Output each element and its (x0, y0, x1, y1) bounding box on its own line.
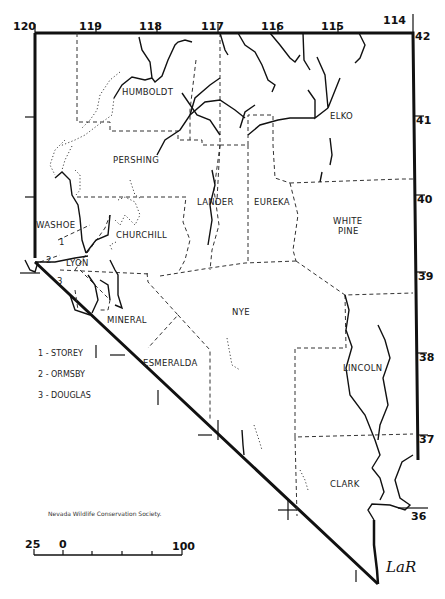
lat-38: 38 (419, 351, 434, 364)
legend-ormsby: 2 - ORMSBY (38, 370, 85, 379)
lon-114: 114 (383, 14, 406, 27)
county-nye: NYE (232, 307, 250, 317)
county-legend: 1 - STOREY 2 - ORMSBY 3 - DOUGLAS (38, 349, 91, 400)
lat-42: 42 (415, 30, 430, 43)
lat-39: 39 (418, 270, 433, 283)
scale-label-25: 25 (25, 538, 40, 551)
county-lyon: LYON (66, 258, 89, 268)
longitude-ticks (20, 14, 413, 582)
state-border (35, 33, 418, 584)
county-clark: CLARK (330, 479, 360, 489)
county-lincoln: LINCOLN (343, 363, 382, 373)
lon-117: 117 (201, 20, 224, 33)
lat-36: 36 (411, 510, 427, 523)
county-eureka: EUREKA (254, 197, 290, 207)
nevada-map: 120 119 118 117 116 115 114 42 41 40 39 … (0, 0, 445, 599)
lon-120: 120 (13, 20, 36, 33)
lon-116: 116 (261, 20, 284, 33)
lon-119: 119 (79, 20, 102, 33)
county-pershing: PERSHING (113, 155, 159, 165)
lat-37: 37 (419, 433, 434, 446)
county-num-2: 2 (46, 255, 52, 265)
county-lander: LANDER (197, 197, 234, 207)
county-white-pine-2: PINE (338, 226, 359, 236)
artist-signature: LaR (385, 558, 416, 576)
county-humboldt: HUMBOLDT (122, 87, 174, 97)
county-churchill: CHURCHILL (116, 230, 167, 240)
latitude-ticks (398, 116, 428, 508)
intermittent-features (50, 72, 308, 490)
county-num-1: 1 (59, 237, 65, 247)
county-washoe: WASHOE (36, 220, 75, 230)
credit-text: Nevada Wildlife Conservation Society. (48, 510, 162, 518)
county-num-3: 3 (57, 276, 63, 286)
scale-bar: 25 0 100 (25, 538, 195, 555)
county-white-pine-1: WHITE (333, 216, 362, 226)
scale-label-0: 0 (59, 538, 67, 551)
lat-41: 41 (416, 114, 431, 127)
longitude-labels: 120 119 118 117 116 115 114 (13, 14, 406, 33)
county-elko: ELKO (330, 111, 353, 121)
legend-douglas: 3 - DOUGLAS (38, 391, 91, 400)
scale-label-100: 100 (172, 540, 195, 553)
county-mineral: MINERAL (107, 315, 147, 325)
lat-40: 40 (417, 193, 433, 206)
county-esmeralda: ESMERALDA (143, 358, 198, 368)
lon-118: 118 (139, 20, 162, 33)
legend-storey: 1 - STOREY (38, 349, 83, 358)
lon-115: 115 (321, 20, 344, 33)
